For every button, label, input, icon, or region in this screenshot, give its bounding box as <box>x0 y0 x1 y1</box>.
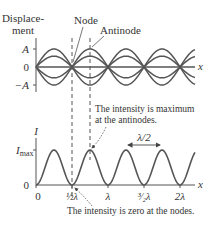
xtick-two-lambda: 2λ <box>175 190 186 202</box>
intensity-curve <box>36 150 195 185</box>
tick-imax: Imax <box>15 144 33 158</box>
tick-zero-top: 0 <box>24 61 30 73</box>
annotation-max-line2: at the antinodes. <box>95 115 157 125</box>
xtick-0: 0 <box>35 190 41 202</box>
annotation-max-pointer <box>92 127 106 148</box>
xtick-three-halves-lambda: ³⁄₂λ <box>138 191 151 202</box>
intensity-plot: I Imax 0 x 0 ½λ λ ³⁄₂λ 2λ λ/2 The intens… <box>15 104 203 216</box>
xtick-half-lambda: ½λ <box>66 191 79 202</box>
tick-negA: −A <box>15 79 29 91</box>
intensity-ylabel: I <box>33 125 39 137</box>
antinode-label: Antinode <box>100 24 141 36</box>
annotation-zero: The intensity is zero at the nodes. <box>67 206 194 216</box>
displacement-ylabel-line2: ment <box>12 24 34 36</box>
intensity-xlabel: x <box>197 178 203 190</box>
standing-wave-diagram: Displace- ment A 0 −A x Node Antinode <box>0 0 220 228</box>
node-pointer <box>73 27 83 62</box>
annotation-max-line1: The intensity is maximum <box>95 104 195 114</box>
half-wavelength-label: λ/2 <box>136 131 151 143</box>
tick-zero-bottom: 0 <box>24 179 30 191</box>
displacement-xlabel: x <box>197 60 203 72</box>
xtick-lambda: λ <box>105 190 111 202</box>
node-label: Node <box>74 14 98 26</box>
antinode-pointer <box>92 36 104 47</box>
displacement-ylabel-line1: Displace- <box>2 12 44 24</box>
tick-A: A <box>21 43 29 55</box>
